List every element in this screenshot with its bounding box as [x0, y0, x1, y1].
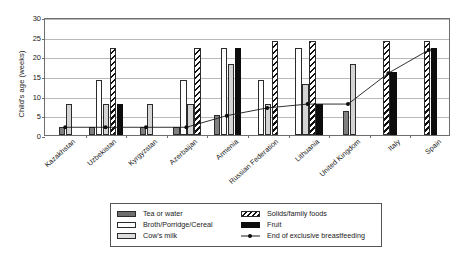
bar-group	[410, 19, 451, 135]
bar-fruit	[235, 48, 241, 135]
bar-milk	[228, 64, 234, 135]
bar-milk	[147, 104, 153, 135]
legend-swatch-icon	[117, 233, 136, 239]
bar-fruit	[316, 104, 322, 135]
x-axis-labels: KazakhstanUzbekistanKyrgyzstanAzerbaijan…	[44, 137, 450, 193]
legend-label: End of exclusive breastfeeding	[267, 231, 365, 240]
bar-fruit	[117, 104, 123, 135]
bar-milk	[66, 104, 72, 135]
bar-solids	[272, 41, 278, 135]
bar-broth	[96, 80, 102, 135]
y-axis-label: Child's age (weeks)	[17, 25, 26, 143]
plot-area	[45, 19, 449, 135]
bar-solids	[309, 41, 315, 135]
legend-item: Broth/Porridge/Cereal	[117, 219, 241, 230]
x-axis-label: Uzbekistan	[85, 137, 118, 168]
x-axis-label: Spain	[423, 137, 443, 156]
bar-group	[289, 19, 330, 135]
bar-group	[370, 19, 411, 135]
legend-swatch-icon	[241, 222, 260, 228]
legend-item: Cow's milk	[117, 230, 241, 241]
bar-milk	[350, 64, 356, 135]
bar-group	[126, 19, 167, 135]
legend-label: Broth/Porridge/Cereal	[143, 220, 213, 229]
plot-frame: Child's age (weeks) 051015202530 Kazakhs…	[44, 18, 450, 136]
legend-item: Solids/family foods	[241, 208, 389, 219]
bar-tea	[89, 127, 95, 135]
bar-fruit	[390, 72, 396, 135]
bar-group	[248, 19, 289, 135]
x-axis-label: Azerbaijan	[167, 137, 199, 167]
bar-milk	[265, 104, 271, 135]
x-axis-label: Lithuania	[293, 137, 321, 164]
legend-item: Tea or water	[117, 208, 241, 219]
bar-milk	[103, 104, 109, 135]
legend-item: End of exclusive breastfeeding	[241, 230, 389, 241]
bar-fruit	[431, 48, 437, 135]
bar-broth	[295, 48, 301, 135]
bar-group	[86, 19, 127, 135]
legend-label: Solids/family foods	[267, 209, 327, 218]
bar-tea	[173, 127, 179, 135]
bar-broth	[258, 80, 264, 135]
legend-swatch-icon	[241, 211, 260, 217]
x-axis-label: Kyrgyzstan	[126, 137, 159, 168]
bar-broth	[180, 80, 186, 135]
bar-tea	[140, 127, 146, 135]
bar-broth	[221, 48, 227, 135]
x-axis-label: Kazakhstan	[43, 137, 77, 169]
x-axis-label: Italy	[386, 137, 402, 153]
legend-label: Cow's milk	[143, 231, 177, 240]
bar-solids	[110, 48, 116, 135]
bar-milk	[302, 84, 308, 135]
legend-swatch-icon	[241, 233, 260, 239]
bar-chart: Child's age (weeks) 051015202530 Kazakhs…	[0, 0, 455, 258]
legend-item: Fruit	[241, 219, 389, 230]
bar-tea	[214, 115, 220, 135]
bar-group	[207, 19, 248, 135]
bar-solids	[194, 48, 200, 135]
bar-solids	[383, 41, 389, 135]
legend-label: Fruit	[267, 220, 281, 229]
chart-legend: Tea or waterSolids/family foodsBroth/Por…	[110, 203, 382, 247]
legend-label: Tea or water	[143, 209, 183, 218]
bar-tea	[343, 111, 349, 135]
legend-swatch-icon	[117, 211, 136, 217]
x-axis-label: Armenia	[214, 137, 240, 162]
x-axis-label: United Kingdom	[317, 137, 362, 178]
bar-group	[167, 19, 208, 135]
bar-tea	[59, 127, 65, 135]
bar-group	[329, 19, 370, 135]
bar-milk	[187, 104, 193, 135]
bar-solids	[424, 41, 430, 135]
bar-group	[45, 19, 86, 135]
legend-swatch-icon	[117, 222, 136, 228]
